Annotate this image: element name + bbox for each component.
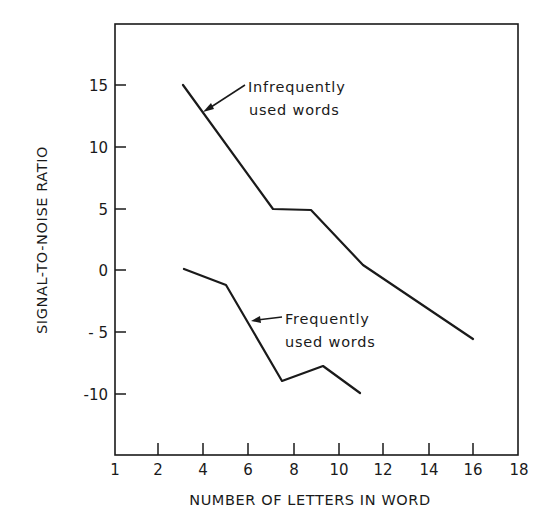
- y-tick-label: 15: [89, 77, 108, 95]
- arrow-line: [257, 317, 282, 320]
- annotation-infrequent: Infrequently used words: [203, 79, 346, 118]
- x-tick-label: 2: [153, 461, 163, 479]
- label-infrequent-line1: Infrequently: [248, 79, 346, 95]
- x-tick-label: 12: [373, 461, 392, 479]
- x-axis-title: NUMBER OF LETTERS IN WORD: [189, 492, 431, 508]
- y-tick-label: 0: [98, 262, 108, 280]
- y-tick-label: 5: [98, 201, 108, 219]
- y-axis: 15 10 5 0 - 5 -10: [84, 77, 127, 404]
- x-tick-label: 18: [509, 461, 528, 479]
- x-tick-label: 6: [243, 461, 253, 479]
- label-infrequent-line2: used words: [249, 102, 340, 118]
- x-axis: 1 2 4 6 8 10 12 14 16 18: [110, 443, 528, 479]
- series-frequent-words: [184, 269, 360, 393]
- y-tick-label: -10: [84, 386, 109, 404]
- x-tick-label: 4: [198, 461, 208, 479]
- x-tick-label: 1: [110, 461, 120, 479]
- annotation-frequent: Frequently used words: [251, 311, 376, 350]
- x-tick-label: 10: [329, 461, 348, 479]
- y-tick-label: 10: [89, 139, 108, 157]
- series-infrequent-words: [183, 85, 473, 339]
- label-frequent-line1: Frequently: [285, 311, 370, 327]
- x-tick-label: 16: [463, 461, 482, 479]
- y-tick-label: - 5: [88, 324, 108, 342]
- x-tick-label: 8: [289, 461, 299, 479]
- arrowhead-icon: [203, 103, 214, 112]
- x-tick-label: 14: [419, 461, 438, 479]
- line-chart: 15 10 5 0 - 5 -10 1 2 4 6 8 10 12 14 16 …: [0, 0, 554, 527]
- arrow-line: [208, 85, 245, 109]
- label-frequent-line2: used words: [285, 334, 376, 350]
- arrowhead-icon: [251, 316, 261, 323]
- y-axis-title: SIGNAL-TO-NOISE RATIO: [34, 146, 50, 334]
